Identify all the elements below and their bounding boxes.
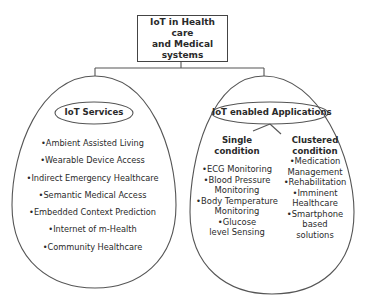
services-list: •Ambient Assisted Living •Wearable Devic…: [10, 135, 175, 256]
applications-title: IoT enabled Applications: [212, 107, 328, 117]
root-title-line-3: systems: [162, 50, 204, 61]
single-item: •Blood Pressure: [194, 175, 280, 186]
single-branch-line: [253, 124, 270, 131]
services-item: •Ambient Assisted Living: [10, 135, 175, 152]
root-title-line-1: IoT in Health care: [138, 17, 227, 39]
single-condition-heading-1: Single: [194, 135, 280, 146]
root-node-box: IoT in Health care and Medical systems: [137, 15, 228, 62]
single-item: •Glucose: [194, 217, 280, 228]
single-item: level Sensing: [194, 227, 280, 238]
clustered-item: •Rehabilitation: [279, 177, 351, 188]
clustered-item: Healthcare: [279, 198, 351, 209]
clustered-item: •Medication: [279, 156, 351, 167]
root-title-line-2: and Medical: [152, 39, 213, 50]
single-item: •ECG Monitoring: [194, 164, 280, 175]
services-item: •Community Healthcare: [10, 239, 175, 256]
single-condition-column: Single condition •ECG Monitoring •Blood …: [194, 135, 280, 238]
clustered-item: based: [279, 219, 351, 230]
clustered-condition-heading-1: Clustered: [279, 135, 351, 146]
services-title: IoT Services: [55, 107, 133, 117]
clustered-item: •Smartphone: [279, 209, 351, 220]
single-condition-heading-2: condition: [194, 146, 280, 157]
clustered-branch-line: [270, 124, 281, 134]
clustered-item: solutions: [279, 230, 351, 241]
services-item: •Embedded Context Prediction: [10, 204, 175, 221]
services-item: •Semantic Medical Access: [10, 187, 175, 204]
single-item: •Body Temperature: [194, 196, 280, 207]
clustered-item: Management: [279, 167, 351, 178]
clustered-item: •Imminent: [279, 188, 351, 199]
single-item: Monitoring: [194, 185, 280, 196]
clustered-condition-column: Clustered condition •Medication Manageme…: [279, 135, 351, 240]
services-item: •Internet of m-Health: [10, 221, 175, 238]
clustered-condition-heading-2: condition: [279, 146, 351, 157]
single-item: Monitoring: [194, 206, 280, 217]
services-item: •Indirect Emergency Healthcare: [10, 170, 175, 187]
services-item: •Wearable Device Access: [10, 152, 175, 169]
